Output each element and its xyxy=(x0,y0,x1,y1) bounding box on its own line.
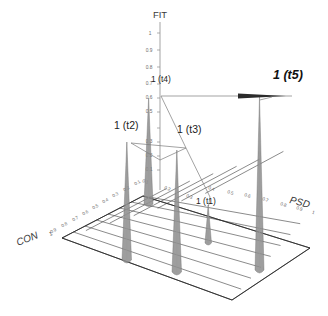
annotation-t2: 1 (t2) xyxy=(114,119,139,131)
con-tick-label-07: 0.7 xyxy=(71,215,79,223)
annotation-t3: 1 (t3) xyxy=(177,123,202,135)
con-tick-label-03: 0.3 xyxy=(111,191,119,199)
vtick-label-09: 0.9 xyxy=(146,48,153,53)
annotation-t5: 1 (t5) xyxy=(273,68,303,82)
grid-outline-top xyxy=(62,196,310,300)
peak-t3 xyxy=(172,150,182,275)
leader-t2-top xyxy=(131,143,186,148)
psd-axis-title: PSD xyxy=(289,194,312,210)
grid-line-psd-6 xyxy=(131,202,290,235)
psd-tick-label-07: 0.7 xyxy=(262,196,270,203)
psd-tick-label-04: 0.4 xyxy=(208,185,216,192)
con-tick-label-04: 0.4 xyxy=(101,197,109,205)
con-tick-label-05: 0.5 xyxy=(91,203,99,211)
vtick-label-1: 1 xyxy=(149,31,152,36)
vtick-label-06: 0.6 xyxy=(146,95,153,100)
floor-grid xyxy=(62,151,310,300)
psd-tick-label-10: 1 xyxy=(311,210,315,216)
peak-t1 xyxy=(205,205,212,245)
con-tick-label-08: 0.8 xyxy=(60,221,68,229)
con-tick-label-01: 0.1 xyxy=(133,179,141,187)
leader-t5-drop xyxy=(260,97,272,100)
surface-plot-svg: 1 0.9 0.8 0.7 0.6 0.5 0.3 0.2 0.1 0.1 0.… xyxy=(0,0,328,316)
annotation-t1: 1 (t1) xyxy=(196,196,216,206)
figure-canvas: 1 0.9 0.8 0.7 0.6 0.5 0.3 0.2 0.1 0.1 0.… xyxy=(0,0,328,316)
axis-titles: FIT PSD CON 1 xyxy=(15,9,312,248)
con-axis-title: CON xyxy=(15,229,40,248)
grid-line-con-6 xyxy=(205,151,283,193)
psd-tick-label-05: 0.5 xyxy=(227,189,235,196)
grid-line-psd-7 xyxy=(143,196,300,224)
grid-line-psd-4 xyxy=(108,214,271,256)
con-tick-label-06: 0.6 xyxy=(81,209,89,217)
leader-t3-to-t1 xyxy=(186,148,210,197)
vtick-label-08: 0.8 xyxy=(146,65,153,70)
grid-line-psd-2 xyxy=(85,226,251,278)
psd-tick-label-06: 0.6 xyxy=(244,192,252,199)
annotation-t4: 1 (t4) xyxy=(151,74,171,84)
fit-axis-title: FIT xyxy=(153,9,167,20)
psd-tick-label-03: 0.3 xyxy=(186,193,194,200)
leader-t2-close xyxy=(160,148,186,160)
leader-t4-down xyxy=(161,96,186,148)
leader-arrow-t5 xyxy=(238,93,286,98)
peak-t5 xyxy=(255,96,264,273)
grid-outline xyxy=(62,196,310,300)
grid-line-psd-1 xyxy=(74,232,242,289)
psd-tick-label-08: 0.8 xyxy=(280,201,288,208)
